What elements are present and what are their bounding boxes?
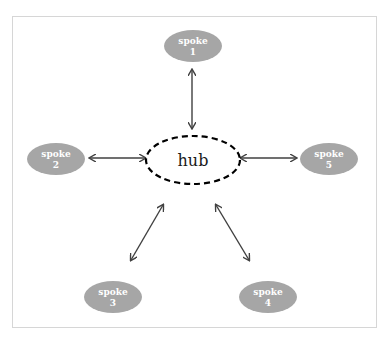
hub-node: hub — [146, 136, 240, 184]
hub-label: hub — [178, 151, 209, 170]
hub-spoke-diagram: hub spoke 1 spoke 2 spoke 5 spoke 3 spok… — [0, 0, 386, 340]
spoke-5-label-line1: spoke — [314, 149, 344, 159]
spoke-4-label-line2: 4 — [265, 298, 271, 308]
spoke-node-2: spoke 2 — [27, 143, 85, 175]
spoke-node-3: spoke 3 — [84, 281, 142, 313]
spoke-2-label-line1: spoke — [41, 149, 71, 159]
spoke-5-label-line2: 5 — [326, 160, 332, 170]
spoke-3-label-line2: 3 — [110, 298, 116, 308]
spoke-1-label-line1: spoke — [178, 36, 208, 46]
spoke-3-label-line1: spoke — [98, 287, 128, 297]
spoke-2-label-line2: 2 — [53, 160, 59, 170]
arrow-spoke4-hub — [216, 205, 249, 260]
spoke-1-label-line2: 1 — [190, 47, 196, 57]
arrow-spoke3-hub — [131, 205, 163, 260]
spoke-4-label-line1: spoke — [253, 287, 283, 297]
spoke-node-4: spoke 4 — [239, 281, 297, 313]
spoke-node-1: spoke 1 — [164, 30, 222, 62]
spoke-node-5: spoke 5 — [300, 143, 358, 175]
